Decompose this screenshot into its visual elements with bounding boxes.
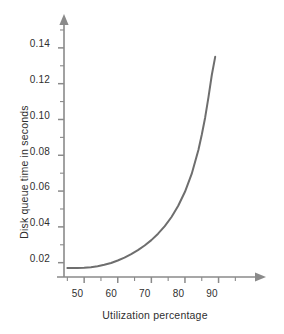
x-tick-label: 80	[173, 288, 185, 299]
y-axis-title: Disk queue time in seconds	[18, 82, 30, 262]
y-axis-arrow-icon	[59, 14, 68, 25]
y-axis-ticks	[58, 30, 64, 263]
x-axis-ticks	[67, 277, 235, 283]
x-axis-arrow-icon	[255, 272, 266, 281]
x-tick-label: 60	[105, 288, 117, 299]
y-tick-label: 0.14	[8, 38, 50, 49]
x-tick-label: 70	[139, 288, 151, 299]
x-tick-label: 90	[206, 288, 218, 299]
series-line-disk-queue-time	[67, 57, 215, 268]
chart-figure: 0.14 0.12 0.10 0.08 0.06 0.04 0.02 50 60…	[0, 0, 284, 334]
x-tick-label: 50	[72, 288, 84, 299]
x-axis	[57, 272, 266, 281]
chart-plot-area	[0, 0, 284, 334]
y-axis	[59, 14, 68, 277]
x-axis-title: Utilization percentage	[40, 309, 270, 321]
